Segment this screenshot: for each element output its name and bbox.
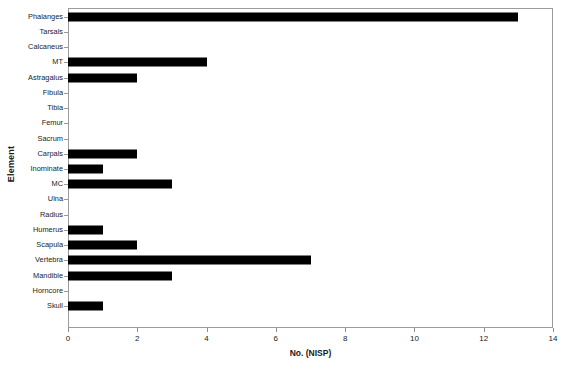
- y-axis-tick: [64, 108, 68, 109]
- x-axis-tick: [276, 328, 277, 332]
- y-axis-tick: [64, 93, 68, 94]
- bar: [68, 12, 518, 21]
- category-label: MC: [52, 180, 64, 188]
- y-axis-tick: [64, 169, 68, 170]
- y-axis-tick: [64, 78, 68, 79]
- x-axis-tick: [207, 328, 208, 332]
- y-axis-tick: [64, 260, 68, 261]
- y-axis-tick: [64, 276, 68, 277]
- bar: [68, 271, 172, 280]
- y-axis-tick: [64, 199, 68, 200]
- bar-chart: Element PhalangesTarsalsCalcaneusMTAstra…: [0, 0, 568, 374]
- plot-area: [68, 8, 553, 328]
- bar: [68, 149, 137, 158]
- x-axis-title: No. (NISP): [68, 348, 553, 358]
- y-axis-tick: [64, 245, 68, 246]
- x-axis-tick: [484, 328, 485, 332]
- category-label: Carpals: [38, 150, 63, 158]
- y-axis-tick: [64, 123, 68, 124]
- x-axis-tick-label: 2: [135, 334, 139, 343]
- y-axis-tick: [64, 139, 68, 140]
- y-axis-tick: [64, 17, 68, 18]
- bar: [68, 225, 103, 234]
- x-axis-tick: [414, 328, 415, 332]
- x-axis-tick: [553, 328, 554, 332]
- category-label: Inominate: [31, 165, 63, 173]
- x-axis-tick: [345, 328, 346, 332]
- y-axis-tick: [64, 291, 68, 292]
- y-axis-tick: [64, 47, 68, 48]
- category-label: Skull: [47, 302, 63, 310]
- category-label: Tarsals: [40, 28, 63, 36]
- y-axis-tick: [64, 215, 68, 216]
- category-label: Astragalus: [28, 74, 63, 82]
- bar: [68, 241, 137, 250]
- y-axis-tick: [64, 62, 68, 63]
- category-label: Calcaneus: [28, 43, 63, 51]
- bar: [68, 180, 172, 189]
- category-label: Phalanges: [28, 13, 63, 21]
- x-axis-tick-label: 8: [343, 334, 347, 343]
- category-label: Femur: [42, 119, 63, 127]
- x-axis-tick-label: 6: [274, 334, 278, 343]
- y-axis-title-text: Element: [6, 146, 16, 182]
- category-label-list: PhalangesTarsalsCalcaneusMTAstragalusFib…: [18, 8, 66, 328]
- category-label: Sacrum: [38, 135, 63, 143]
- category-label: Humerus: [33, 226, 63, 234]
- bar: [68, 256, 311, 265]
- y-axis-tick: [64, 230, 68, 231]
- y-axis-tick: [64, 184, 68, 185]
- category-label: Horncore: [33, 287, 63, 295]
- bar: [68, 165, 103, 174]
- bar: [68, 73, 137, 82]
- category-label: Tibia: [47, 104, 63, 112]
- category-label: Scapula: [36, 241, 63, 249]
- category-label: MT: [52, 58, 63, 66]
- category-label: Fibula: [43, 89, 63, 97]
- x-axis-tick: [68, 328, 69, 332]
- x-axis-tick-label: 10: [410, 334, 419, 343]
- x-axis-tick-label: 12: [479, 334, 488, 343]
- bar: [68, 302, 103, 311]
- category-label: Mandible: [33, 272, 63, 280]
- x-axis-tick-label: 4: [204, 334, 208, 343]
- x-axis-tick-label: 0: [66, 334, 70, 343]
- x-axis-tick: [137, 328, 138, 332]
- y-axis-tick: [64, 154, 68, 155]
- category-label: Radius: [40, 211, 63, 219]
- y-axis-tick: [64, 32, 68, 33]
- category-label: Ulna: [48, 195, 63, 203]
- category-label: Vertebra: [35, 256, 63, 264]
- bar: [68, 58, 207, 67]
- y-axis-tick: [64, 306, 68, 307]
- x-axis-tick-label: 14: [549, 334, 558, 343]
